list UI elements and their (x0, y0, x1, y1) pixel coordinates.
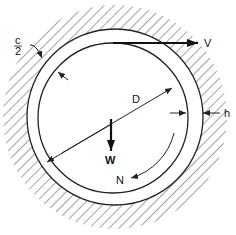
rotation-label: N (116, 174, 124, 186)
load-label: W (105, 154, 116, 166)
diameter-label: D (132, 93, 140, 105)
journal-bearing-diagram: c 2 V D W h N (0, 0, 236, 235)
velocity-label: V (204, 37, 212, 49)
clearance-label-denominator: 2 (15, 45, 21, 57)
journal-circle (38, 43, 188, 193)
film-thickness-label: h (224, 107, 230, 119)
